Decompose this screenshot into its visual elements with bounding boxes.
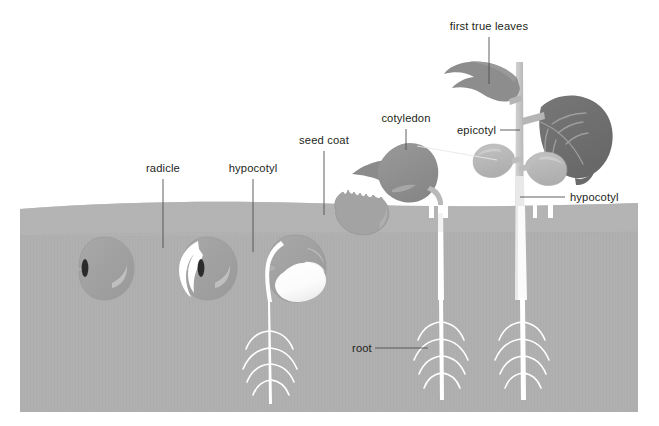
hypocotyl-stem-soil-4: [438, 213, 443, 232]
taproot-stem-5: [520, 298, 526, 400]
label-hypocotyl-right: hypocotyl: [570, 191, 619, 203]
label-seed-coat: seed coat: [299, 134, 350, 146]
stage-1-dormant-seed: [79, 237, 134, 300]
germination-diagram: radicle hypocotyl seed coat cotyledon ep…: [0, 0, 659, 426]
label-first-true-leaves: first true leaves: [450, 20, 529, 32]
label-hypocotyl-left: hypocotyl: [229, 162, 278, 174]
label-epicotyl: epicotyl: [457, 124, 496, 136]
label-radicle: radicle: [146, 162, 180, 174]
soil-top-band: [20, 202, 638, 236]
germination-scene: radicle hypocotyl seed coat cotyledon ep…: [0, 0, 659, 426]
hilum-1: [82, 259, 89, 277]
hilum-2: [198, 259, 205, 277]
label-root: root: [352, 342, 373, 354]
soil-layer: [20, 202, 638, 412]
label-cotyledon: cotyledon: [381, 112, 430, 124]
